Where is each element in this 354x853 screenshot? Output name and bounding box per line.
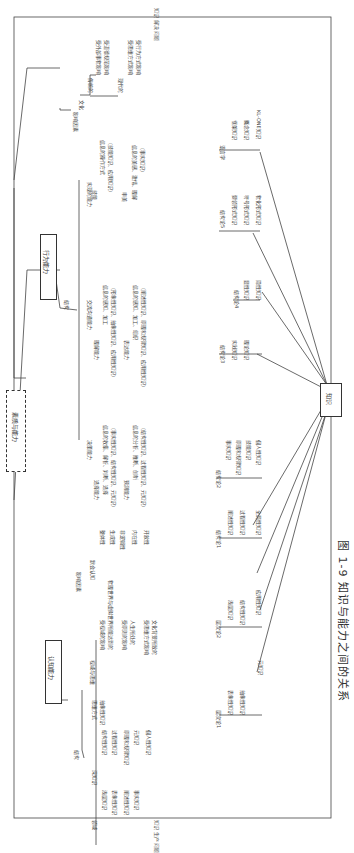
trad-item-0: 受外部事物影响 [96, 40, 102, 75]
skill-item-1: （技能知识、应用知识） [108, 140, 114, 195]
kg-language-item-2: KL-ONE知识 [256, 110, 262, 139]
side-label-top: 知识 解决 问题 [154, 8, 160, 41]
kg-s5-item-0: 要领形式知识 [232, 195, 238, 225]
cog-item-0: 整体性 [100, 530, 106, 545]
domain-item-1: 表象性知识 [112, 790, 118, 815]
trad-item-1: 受道德规范影响 [104, 40, 110, 75]
choose-item-1: （事实性知识、结构性知识、元知识） [111, 425, 117, 510]
vision-item-1: 物理世界与虚拟世界所能达到的 [108, 580, 114, 650]
cog-item-3: 内在性 [132, 530, 138, 545]
kg-s3-item-0: 实践知识 [232, 340, 238, 360]
behavior-structure: 结构 [64, 300, 70, 310]
vision-item-4: 受思维方式影响 [144, 620, 150, 655]
kg-l2-item-1: 结构性知识 [240, 600, 246, 625]
cognitive-structure: 结构 [74, 750, 80, 760]
kg-l2-item-2: 应用性知识 [256, 590, 262, 615]
skill-item-0: 信息的操作方式 [100, 140, 106, 175]
cognitive-deep: 深知识 [92, 770, 98, 785]
art-item-1: （事实知识） [140, 145, 146, 175]
behavior-predict: 预测能力 [124, 480, 130, 500]
kg-s5-item-1: 符号形式知识 [244, 195, 250, 225]
behavior-modern: 现代的 [118, 78, 124, 93]
kg-s1-title: 结构论1 [216, 530, 222, 548]
express-item-1: （阐述性知识、原理和规律知识、应用性知识） [141, 285, 147, 390]
cognitive-influence: 影响因素 [76, 572, 82, 592]
kg-s2-item-0: 事实知识 [226, 440, 232, 460]
cognitive-domain: 领域 [92, 820, 98, 830]
vision-item-5: 文化背景所致的 [152, 620, 158, 655]
cog-item-2: 非逻辑性 [120, 530, 126, 550]
cognitive-ability-label: 认知能力 [47, 656, 56, 680]
behavior-culture: 文化 [79, 100, 85, 110]
kg-s2-item-3: 個人性知识 [256, 440, 262, 465]
behavior-traditional: 传统的 [88, 78, 94, 93]
behavior-influence: 影响因素 [73, 112, 79, 132]
center-box-label: 素质与能力 [11, 412, 20, 442]
understand-item-1: （形象性知识、抽象性知识、应用性知识） [111, 285, 117, 380]
kg-s3-item-1: 理论知识 [244, 340, 250, 360]
deep-item-4: 個人性知识 [146, 730, 152, 755]
kg-s5-title: 结构论5 [220, 210, 226, 228]
kg-l2-title: 层次论2 [216, 620, 222, 638]
predict-item-1: （结构性知识、过程性知识、元知识） [141, 425, 147, 510]
behavior-art: 审美 [122, 192, 128, 202]
kg-l1-item-1: 抽象性知识 [240, 690, 246, 715]
behavior-choose: 选择能力 [94, 480, 100, 500]
cognitive-thinking: 思维方式 [92, 700, 98, 720]
kg-s1-item-2: 全局性知识 [256, 510, 262, 535]
choose-item-0: 信息的收集、解析、判断、选择 [103, 425, 109, 495]
modern-item-0: 受思维方式影响 [128, 40, 134, 75]
cog-item-4: 开放性 [144, 530, 150, 545]
modern-item-1: 受行为方式影响 [136, 40, 142, 75]
art-item-0: 信息的美感、激情、理解 [132, 145, 138, 200]
domain-item-0: 浅层知识 [102, 790, 108, 810]
express-item-0: 信息的感知、加工、组织 [133, 285, 139, 340]
kg-s4-item-0: 显性知识 [244, 280, 250, 300]
kg-l1-item-0: 表象性知识 [228, 690, 234, 715]
vision-item-0: 受视域的影响 [100, 620, 106, 650]
kg-s2-title: 结构论2 [216, 470, 222, 488]
behavior-communicate: 交流沟通能力 [87, 300, 93, 330]
kg-s5-item-2: 物化形式知识 [256, 195, 262, 225]
behavior-ability-label: 行为能力 [42, 250, 51, 274]
deep-item-3: 元知识 [134, 730, 140, 745]
kg-language-item-1: 概念知识 [244, 120, 250, 140]
kg-l2-item-0: 浅层知识 [228, 600, 234, 620]
kg-l1-item-2: 元知识 [258, 660, 264, 675]
behavior-skill: 技能 [92, 190, 98, 200]
deep-item-1: 过程性知识 [112, 730, 118, 755]
behavior-decide: 决策能力 [87, 440, 93, 460]
predict-item-0: 信息的分析、推断、创新 [133, 425, 139, 480]
kg-language-item-0: 框架知识 [232, 120, 238, 140]
kg-s3-title: 结构论3 [220, 345, 226, 363]
behavior-express: 表达能力 [124, 340, 130, 360]
vision-item-3: 人生所处的 [130, 620, 136, 645]
thinking-item-0: 抽象性知识 [100, 700, 106, 725]
kg-language-title: 语言学 [220, 145, 226, 160]
kg-s4-title: 结构论4 [234, 290, 240, 308]
kg-s1-item-0: 阐述性知识 [228, 510, 234, 535]
domain-item-3: 事实知识 [134, 790, 140, 810]
kg-s2-item-1: 原理和规律知识 [236, 440, 242, 475]
deep-item-0: 结构性知识 [102, 730, 108, 755]
kg-s4-item-1: 隐性知识 [256, 280, 262, 300]
kg-s1-item-1: 过程性知识 [240, 510, 246, 535]
knowledge-box-label: 知识 [325, 393, 334, 405]
side-label-bottom: 知识 生产 问题 [154, 820, 160, 853]
cognitive-vision: 视域与思维 [90, 660, 96, 685]
cog-item-1: 生成性 [110, 530, 116, 545]
cognitive-tacit: 默会认知 [90, 560, 96, 580]
figure-caption: 图 1-9 知识与能力之间的关系 [336, 540, 352, 702]
behavior-understand: 理解能力 [94, 340, 100, 360]
domain-item-2: 阐述性知识 [124, 790, 130, 815]
kg-s2-item-2: 技能知识 [246, 440, 252, 460]
kg-l1-title: 层次论1 [216, 710, 222, 728]
vision-item-2: 受原则的影响 [122, 620, 128, 650]
deep-item-2: 原理和规律知识 [124, 730, 130, 765]
understand-item-0: 信息的感知、加工 [103, 285, 109, 325]
